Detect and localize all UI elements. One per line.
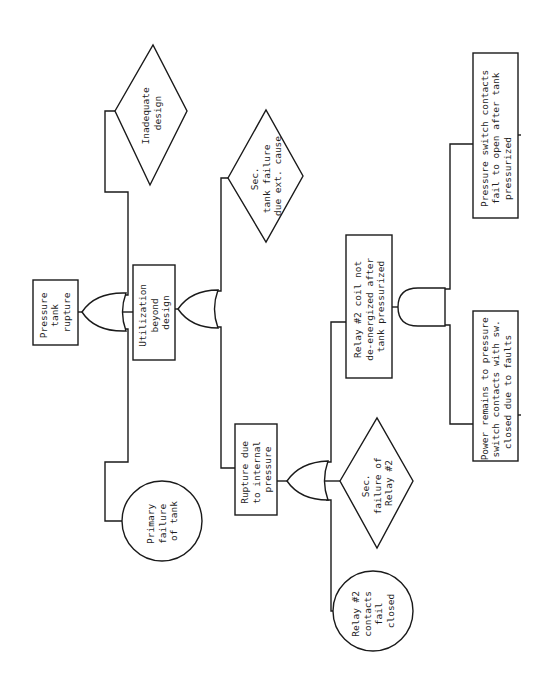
label-line: of tank [168, 501, 179, 541]
label-line: Sec. [249, 167, 260, 190]
label-line: fail [373, 602, 384, 625]
fault-tree-diagram: Pressure tank rupture Utilization beyond… [0, 0, 552, 695]
or-gate-3 [287, 461, 328, 500]
label-line: Utilization [137, 284, 148, 347]
label-line: Relay #2 coil not [352, 261, 363, 358]
svg-text:Primary failure of: Primary failure of tank [145, 498, 179, 544]
label-line: tank [49, 304, 60, 327]
event-sec-tank-failure: Sec. tank failure due ext. cause [228, 110, 303, 242]
event-inadequate-design: Inadequate design [115, 45, 187, 185]
label-line: rupture [61, 292, 72, 332]
and-gate [398, 288, 445, 326]
event-rupture-internal-pressure: Rupture due to internal pressure [235, 424, 277, 515]
label-line: tank failure [261, 144, 272, 213]
label-line: fail to open after tank [490, 72, 501, 204]
event-primary-failure-of-tank: Primary failure of tank [122, 481, 202, 561]
label-line: tank pressurized [375, 261, 386, 353]
label-line: Relay #2 [383, 460, 394, 506]
label-line: design [152, 96, 163, 130]
label-line: pressure [262, 446, 273, 492]
event-sec-failure-relay: Sec. failure of Relay #2 [340, 418, 413, 548]
event-utilization-beyond-design: Utilization beyond design [133, 265, 175, 360]
or-gate-1 [82, 293, 126, 331]
label-line: failure [157, 504, 168, 544]
label-line: Relay #2 [350, 591, 361, 637]
event-power-remains: Power remains to pressure switch contact… [473, 311, 518, 461]
event-pressure-switch-fail-open: Pressure switch contacts fail to open af… [473, 53, 518, 218]
label-line: de-energized after [364, 258, 375, 361]
svg-text:Relay #2 coil not de-ene: Relay #2 coil not de-energized after tan… [352, 252, 386, 361]
label-line: pressurized [502, 137, 513, 200]
label-line: failure of [372, 457, 383, 514]
event-relay-coil-not-deenergized: Relay #2 coil not de-energized after tan… [346, 235, 392, 378]
event-pressure-tank-rupture: Pressure tank rupture [33, 280, 78, 345]
or-gate-2 [178, 290, 218, 328]
label-line: design [160, 295, 171, 329]
event-relay-contacts-fail-closed: Relay #2 contacts fail closed [333, 571, 413, 651]
label-line: closed due to faults [502, 335, 513, 449]
label-line: beyond [149, 298, 160, 332]
label-line: Power remains to pressure [479, 317, 490, 460]
label-line: Pressure [38, 292, 49, 338]
label-line: due ext. cause [272, 136, 283, 216]
label-line: Primary [145, 504, 156, 544]
label-line: to internal [251, 441, 262, 504]
label-line: Rupture due [239, 441, 250, 504]
label-line: Inadequate [140, 87, 151, 144]
label-line: contacts [362, 591, 373, 637]
label-line: Sec. [360, 474, 371, 497]
label-line: switch contacts with sw. [490, 320, 501, 457]
label-line: closed [385, 594, 396, 628]
label-line: Pressure switch contacts [479, 70, 490, 207]
